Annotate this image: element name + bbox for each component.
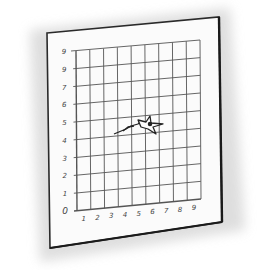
x-axis-label: 3 (109, 212, 113, 220)
y-axis-label: 4 (62, 137, 66, 145)
sketch-canvas: 0123456799 123456789 (0, 0, 259, 270)
x-axis-label: 1 (81, 215, 85, 223)
y-axis-label: 9 (62, 48, 67, 56)
sketch-scene: 0123456799 123456789 (0, 0, 259, 270)
x-axis-label: 7 (164, 207, 169, 215)
y-axis-label: 3 (62, 155, 66, 163)
y-axis-label: 0 (62, 206, 68, 216)
y-axis-label: 9 (62, 66, 67, 74)
x-axis-label: 2 (95, 214, 100, 222)
x-axis-label: 5 (137, 210, 142, 218)
y-axis-label: 7 (62, 84, 67, 92)
y-axis-label: 6 (62, 101, 67, 109)
grid-line-vertical (76, 51, 77, 211)
y-axis-label: 5 (62, 119, 67, 127)
y-axis-label: 1 (63, 190, 67, 198)
x-axis-label: 9 (192, 204, 197, 212)
x-axis-label: 8 (178, 206, 183, 214)
paper-sheet (47, 17, 222, 248)
y-axis-label: 2 (63, 172, 68, 180)
x-axis-label: 6 (150, 208, 155, 216)
x-axis-label: 4 (123, 211, 127, 219)
